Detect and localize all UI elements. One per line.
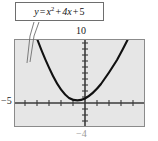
- equation-callout-text: y=x2+4x+5: [34, 7, 84, 17]
- equation-plus-2: +: [72, 6, 80, 17]
- axis-label-left: −5: [1, 95, 12, 106]
- axis-label-bottom: −4: [76, 128, 87, 139]
- plot-svg: [15, 40, 144, 126]
- quadratic-graph-figure: 10 −5 −4: [0, 0, 158, 141]
- equation-term2: 4x: [62, 6, 72, 17]
- equation-term3: 5: [80, 6, 85, 17]
- equation-callout-box: y=x2+4x+5: [15, 2, 104, 21]
- axis-label-top: 10: [76, 25, 86, 36]
- equation-equals: =: [39, 6, 47, 17]
- plot-area: [14, 39, 145, 127]
